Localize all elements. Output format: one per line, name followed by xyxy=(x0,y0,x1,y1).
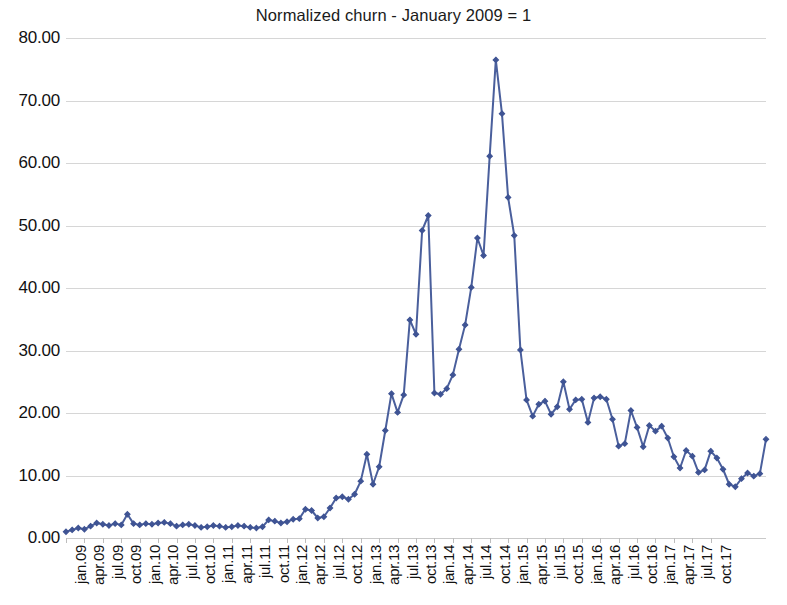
x-tick-mark xyxy=(527,538,528,543)
x-tick-label: jan.14 xyxy=(440,545,457,584)
x-tick-mark xyxy=(250,538,251,543)
data-point-marker xyxy=(524,397,529,402)
data-point-marker xyxy=(254,525,259,530)
x-tick-label: jul.12 xyxy=(330,545,347,579)
x-tick-mark xyxy=(84,538,85,543)
x-tick-label: apr.14 xyxy=(459,545,476,585)
x-tick-label: oct.11 xyxy=(275,545,292,583)
x-tick-mark xyxy=(158,538,159,543)
data-point-marker xyxy=(383,428,388,433)
data-point-marker xyxy=(487,154,492,159)
x-tick-label: oct.13 xyxy=(422,545,439,584)
x-tick-mark xyxy=(213,538,214,543)
data-point-marker xyxy=(143,521,148,526)
x-tick-label: jul.13 xyxy=(404,545,421,579)
x-tick-mark xyxy=(342,538,343,543)
y-tick-label: 30.00 xyxy=(18,341,60,361)
x-tick-label: apr.15 xyxy=(533,545,550,585)
data-point-marker xyxy=(100,522,105,527)
x-tick-mark xyxy=(140,538,141,543)
x-tick-label: apr.10 xyxy=(164,545,181,585)
data-point-marker xyxy=(475,235,480,240)
data-point-marker xyxy=(364,452,369,457)
y-axis-labels: 0.0010.0020.0030.0040.0050.0060.0070.008… xyxy=(0,38,60,538)
x-tick-mark xyxy=(600,538,601,543)
data-point-marker xyxy=(70,527,75,532)
x-tick-label: oct.17 xyxy=(717,545,734,584)
x-tick-label: oct.10 xyxy=(201,545,218,584)
x-tick-label: jul.16 xyxy=(625,545,642,579)
y-tick-label: 40.00 xyxy=(18,278,60,298)
x-tick-mark xyxy=(324,538,325,543)
x-tick-mark xyxy=(711,538,712,543)
x-tick-label: jan.15 xyxy=(514,545,531,584)
x-tick-mark xyxy=(66,538,67,543)
data-point-marker xyxy=(235,523,240,528)
x-tick-label: jan.10 xyxy=(146,545,163,584)
x-tick-mark xyxy=(490,538,491,543)
data-point-marker xyxy=(628,408,633,413)
data-point-marker xyxy=(211,523,216,528)
x-tick-label: oct.16 xyxy=(643,545,660,584)
data-point-marker xyxy=(192,523,197,528)
x-tick-mark xyxy=(453,538,454,543)
data-point-marker xyxy=(518,347,523,352)
x-tick-label: oct.15 xyxy=(569,545,586,584)
data-point-marker xyxy=(113,521,118,526)
data-point-marker xyxy=(162,520,167,525)
x-tick-label: jan.13 xyxy=(367,545,384,584)
x-tick-mark xyxy=(416,538,417,543)
y-tick-label: 20.00 xyxy=(18,403,60,423)
x-tick-label: jan.09 xyxy=(72,545,89,584)
x-tick-mark xyxy=(619,538,620,543)
data-point-marker xyxy=(506,195,511,200)
x-tick-mark xyxy=(563,538,564,543)
x-tick-label: oct.14 xyxy=(496,545,513,584)
x-tick-mark xyxy=(177,538,178,543)
data-point-marker xyxy=(156,520,161,525)
x-tick-mark xyxy=(398,538,399,543)
x-axis-labels: jan.09apr.09jul.09oct.09jan.10apr.10jul.… xyxy=(66,545,766,605)
x-tick-mark xyxy=(508,538,509,543)
data-point-marker xyxy=(579,397,584,402)
x-tick-label: apr.09 xyxy=(90,545,107,585)
data-point-marker xyxy=(229,524,234,529)
data-point-marker xyxy=(340,494,345,499)
data-point-marker xyxy=(634,425,639,430)
data-point-marker xyxy=(469,285,474,290)
x-tick-label: jul.17 xyxy=(698,545,715,579)
data-point-marker xyxy=(198,525,203,530)
data-point-marker xyxy=(180,522,185,527)
data-point-marker xyxy=(395,410,400,415)
data-point-marker xyxy=(456,347,461,352)
x-tick-label: jul.15 xyxy=(551,545,568,579)
x-tick-label: oct.12 xyxy=(348,545,365,584)
x-tick-mark xyxy=(545,538,546,543)
x-tick-mark xyxy=(269,538,270,543)
data-point-marker xyxy=(641,444,646,449)
data-point-marker xyxy=(463,322,468,327)
x-tick-mark xyxy=(674,538,675,543)
data-point-marker xyxy=(585,420,590,425)
line-series xyxy=(66,38,766,538)
x-tick-label: apr.12 xyxy=(311,545,328,585)
data-point-marker xyxy=(241,524,246,529)
x-tick-mark xyxy=(103,538,104,543)
data-point-marker xyxy=(149,522,154,527)
data-point-marker xyxy=(174,524,179,529)
data-point-marker xyxy=(377,464,382,469)
data-point-marker xyxy=(481,253,486,258)
x-tick-mark xyxy=(361,538,362,543)
x-tick-label: jul.09 xyxy=(109,545,126,579)
data-point-marker xyxy=(696,470,701,475)
data-point-marker xyxy=(493,57,498,62)
data-point-marker xyxy=(512,233,517,238)
data-point-marker xyxy=(591,395,596,400)
data-point-marker xyxy=(137,522,142,527)
x-tick-mark xyxy=(121,538,122,543)
x-tick-mark xyxy=(232,538,233,543)
x-tick-label: jul.10 xyxy=(183,545,200,579)
data-point-marker xyxy=(223,525,228,530)
y-tick-label: 50.00 xyxy=(18,216,60,236)
x-tick-label: apr.16 xyxy=(606,545,623,585)
